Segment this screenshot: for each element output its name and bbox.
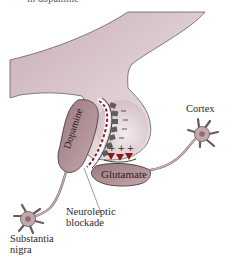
plus-signs: + + + [108, 143, 134, 154]
cortex-label: Cortex [186, 103, 215, 114]
substantia-label-line1: Substantia [10, 233, 54, 244]
cortex-nucleus [199, 131, 205, 137]
glutamate-label: Glutamate [101, 169, 147, 180]
glutamate-axon [150, 134, 200, 170]
substantia-label-line2: nigra [10, 244, 54, 255]
neuroleptic-label-line2: blockade [66, 217, 116, 228]
neuroleptic-blockade-label: Neuroleptic blockade [66, 206, 116, 228]
substantia-nigra-neuron [14, 205, 43, 233]
diagram-canvas: in dopamine [0, 0, 228, 263]
dendrite-spine [10, 12, 205, 160]
substantia-nucleus [25, 216, 31, 222]
substantia-nigra-label: Substantia nigra [10, 233, 54, 255]
dopamine-terminal [30, 100, 98, 218]
neuroleptic-label-line1: Neuroleptic [66, 206, 116, 217]
